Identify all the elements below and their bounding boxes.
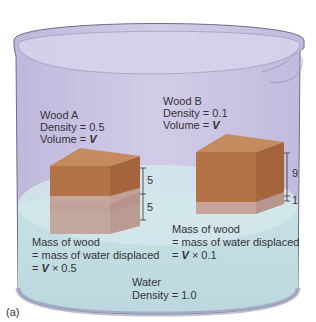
wood-b-mass-var: V (181, 249, 188, 261)
buoyancy-diagram: Wood A Density = 0.5 Volume = V 5 5 Wood… (0, 0, 316, 322)
wood-block-b (196, 134, 284, 214)
wood-b-volume-var: V (212, 119, 219, 131)
wood-block-a (50, 148, 140, 234)
wood-b-volume-prefix: Volume = (163, 119, 212, 131)
wood-b-above-water: 9 (292, 167, 298, 179)
wood-a-mass-line2: = mass of water displaced (32, 249, 159, 262)
wood-b-mass-line2: = mass of water displaced (172, 236, 299, 249)
wood-b-volume: Volume = V (163, 119, 220, 132)
wood-b-mass-line3: = V × 0.1 (172, 249, 217, 262)
water-density: Density = 1.0 (132, 289, 197, 302)
wood-b-title: Wood B (163, 95, 202, 108)
wood-a-volume-var: V (89, 133, 96, 145)
wood-a-volume: Volume = V (40, 133, 97, 146)
wood-a-mass-line1: Mass of wood (32, 236, 100, 249)
wood-a-volume-prefix: Volume = (40, 133, 89, 145)
wood-b-below-water: 1 (292, 194, 298, 206)
wood-b-mass-suffix: × 0.1 (189, 249, 217, 261)
wood-a-mass-var: V (41, 262, 48, 274)
wood-a-above-water: 5 (147, 174, 153, 186)
wood-a-density: Density = 0.5 (40, 121, 105, 134)
wood-a-mass-suffix: × 0.5 (49, 262, 77, 274)
panel-label: (a) (6, 306, 19, 319)
wood-a-mass-line3: = V × 0.5 (32, 262, 77, 275)
wood-b-density: Density = 0.1 (163, 107, 228, 120)
wood-b-mass-line1: Mass of wood (172, 223, 240, 236)
water-title: Water (132, 276, 161, 289)
wood-a-below-water: 5 (147, 201, 153, 213)
wood-a-title: Wood A (40, 109, 78, 122)
